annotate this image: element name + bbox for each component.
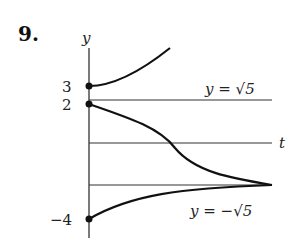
solution-curve-from-2 — [89, 104, 272, 185]
initial-point-3 — [86, 83, 93, 90]
tick-3: 3 — [62, 78, 72, 96]
initial-point-neg4 — [86, 216, 93, 223]
t-axis-label: t — [279, 134, 286, 152]
problem-number: 9. — [18, 22, 39, 46]
y-axis-label: y — [81, 29, 91, 47]
equilibrium-lower-label: y = −√5 — [189, 202, 252, 220]
solution-curve-from-3 — [89, 48, 170, 86]
initial-point-2 — [86, 101, 93, 108]
equilibrium-upper-label: y = √5 — [204, 80, 255, 98]
phase-diagram: 9. y t y = √5 y = −√5 3 2 −4 — [0, 0, 299, 251]
tick-2: 2 — [62, 96, 72, 114]
tick-neg4: −4 — [50, 211, 72, 229]
